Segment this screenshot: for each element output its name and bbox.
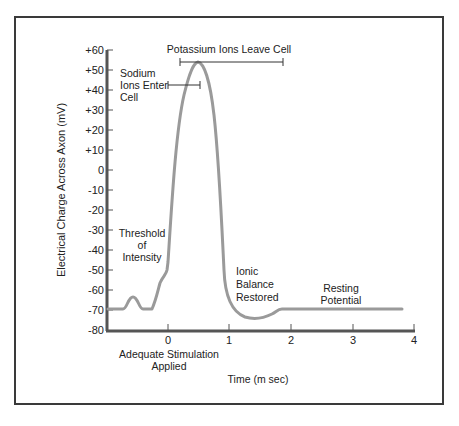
ionic-label-line: Ionic <box>236 265 258 277</box>
resting-label-line: Potential <box>321 294 362 306</box>
y-tick-label: +30 <box>85 104 104 116</box>
x-tick-label: 4 <box>411 334 417 346</box>
x-tick-label: 3 <box>350 334 356 346</box>
threshold-label-line: Intensity <box>122 251 162 263</box>
y-tick-label: -10 <box>88 184 104 196</box>
action-potential-chart: +60 +50 +40 +30 +20 +10 0 -10 -20 -30 -4… <box>0 0 459 426</box>
sodium-label-line: Cell <box>120 91 138 103</box>
threshold-label: Threshold of Intensity <box>119 227 166 263</box>
x-axis-title: Time (m sec) <box>228 373 289 385</box>
y-tick-label: +60 <box>85 44 104 56</box>
resting-potential-label: Resting Potential <box>321 282 362 306</box>
x-tick-label: 2 <box>288 334 294 346</box>
y-tick-label: +40 <box>85 84 104 96</box>
ionic-label-line: Restored <box>236 291 279 303</box>
sodium-label-line: Ions Enter <box>120 79 168 91</box>
potassium-label: Potassium Ions Leave Cell <box>167 43 291 55</box>
sodium-span-bar <box>168 81 200 89</box>
stimulation-label-line: Adequate Stimulation <box>119 348 219 360</box>
sodium-label-line: Sodium <box>120 67 156 79</box>
stimulation-label-line: Applied <box>151 360 186 372</box>
x-tick-label: 1 <box>226 334 232 346</box>
y-tick-label: +20 <box>85 124 104 136</box>
y-tick-labels: +60 +50 +40 +30 +20 +10 0 -10 -20 -30 -4… <box>85 44 104 336</box>
y-tick-label: -40 <box>88 244 104 256</box>
x-tick-labels: 0 1 2 3 4 <box>165 334 417 346</box>
y-tick-label: -80 <box>88 324 104 336</box>
threshold-label-line: Threshold <box>119 227 166 239</box>
y-tick-label: 0 <box>98 164 104 176</box>
y-tick-label: -60 <box>88 284 104 296</box>
y-tick-label: -30 <box>88 224 104 236</box>
threshold-label-line: of <box>138 239 147 251</box>
y-tick-label: +10 <box>85 144 104 156</box>
sodium-label: Sodium Ions Enter Cell <box>120 67 168 103</box>
x-tick-label: 0 <box>165 334 171 346</box>
resting-label-line: Resting <box>323 282 359 294</box>
stimulation-label: Adequate Stimulation Applied <box>119 348 219 372</box>
ionic-label-line: Balance <box>236 278 274 290</box>
y-tick-label: -70 <box>88 304 104 316</box>
y-tick-label: -50 <box>88 264 104 276</box>
ionic-balance-label: Ionic Balance Restored <box>236 265 279 303</box>
y-tick-label: +50 <box>85 64 104 76</box>
y-axis-title: Electrical Charge Across Axon (mV) <box>55 103 67 277</box>
y-tick-label: -20 <box>88 204 104 216</box>
